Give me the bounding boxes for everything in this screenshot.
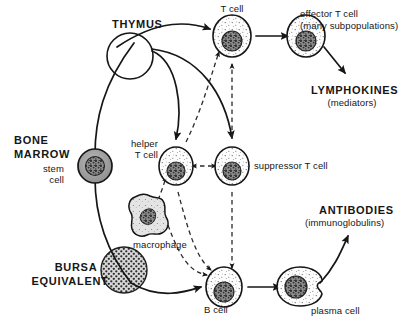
helper-t-cell	[159, 147, 193, 185]
immunology-diagram: THYMUS BONE MARROW stem cell BURSA EQUIV…	[0, 0, 416, 323]
b-cell-label: B cell	[204, 305, 228, 316]
lymphokines-label: LYMPHOKINES	[311, 84, 398, 96]
macrophage-label: macrophage	[133, 240, 187, 251]
bursa-equivalent-label-line1: BURSA	[38, 261, 114, 273]
suppressor-t-cell-label: suppressor T cell	[254, 161, 328, 172]
effector-t-cell-label-line2: (many subpopulations)	[300, 21, 398, 32]
antibodies-label: ANTIBODIES	[319, 204, 394, 216]
plasma-cell	[277, 267, 322, 306]
b-cell	[206, 267, 242, 307]
path-thymus-to-suppressor-t-cell	[152, 49, 232, 138]
t-cell	[213, 15, 251, 57]
macrophage	[129, 194, 168, 236]
stem-cell-label-line2: cell	[6, 175, 64, 186]
bursa-equivalent-label-line2: EQUIVALENT	[26, 275, 114, 287]
bone-marrow-label-line1: BONE	[14, 134, 49, 146]
t-cell-label: T cell	[207, 4, 257, 15]
antibodies-qualifier: (immunoglobulins)	[305, 218, 384, 229]
bone-marrow-label-line2: MARROW	[14, 148, 70, 160]
path-plasma-cell-to-antibodies	[320, 236, 348, 283]
suppressor-t-cell	[215, 147, 249, 185]
path-thymus-to-helper-t-cell	[152, 51, 179, 139]
stem-cell	[78, 149, 112, 183]
helper-t-cell-label-line2: T cell	[116, 150, 158, 161]
path-effector-to-lymphokines	[324, 47, 345, 73]
thymus-label: THYMUS	[112, 18, 163, 30]
plasma-cell-label: plasma cell	[311, 306, 360, 317]
path-helper-to-t-cell	[186, 52, 219, 142]
effector-t-cell-label-line1: effector T cell	[300, 9, 358, 20]
lymphokines-qualifier: (mediators)	[311, 98, 393, 109]
